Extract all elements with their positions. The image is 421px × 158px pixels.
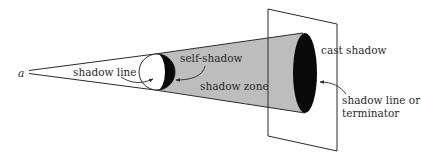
- terminator-arrow: [320, 82, 346, 94]
- terminator-label-line1: shadow line or: [342, 94, 421, 106]
- self-shadow-label: self-shadow: [180, 52, 242, 64]
- terminator-label-line2: terminator: [342, 107, 400, 119]
- cast-shadow-label: cast shadow: [321, 44, 387, 56]
- shadow-diagram: a shadow line self-shadow shadow zone ca…: [0, 0, 421, 158]
- shadow-zone-label: shadow zone: [200, 80, 269, 92]
- cast-shadow-ellipse: [293, 33, 317, 113]
- light-source-label: a: [18, 67, 24, 79]
- shadow-zone: [157, 33, 305, 113]
- shadow-line-label: shadow line: [73, 66, 136, 78]
